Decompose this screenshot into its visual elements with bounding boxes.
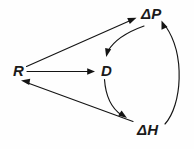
edge-r-to-d <box>27 68 95 74</box>
edge-r-to-delta-p <box>27 18 137 67</box>
arrowhead-r-to-d <box>87 68 95 74</box>
edge-delta-p-to-d <box>105 26 144 57</box>
edge-delta-h-to-r-line <box>27 83 134 122</box>
edge-delta-h-to-delta-p-line <box>165 26 179 124</box>
edge-delta-h-to-delta-p <box>162 21 180 125</box>
node-label-delta-h: ΔH <box>137 122 158 137</box>
edge-r-to-delta-p-line <box>27 20 132 67</box>
edge-delta-p-to-d-line <box>108 26 144 51</box>
edge-d-to-delta-h-line <box>105 80 122 116</box>
node-label-r: R <box>13 63 24 78</box>
node-label-d: D <box>101 63 112 78</box>
path-diagram: R D ΔP ΔH <box>0 0 194 149</box>
edge-delta-h-to-r <box>21 79 133 122</box>
arrowhead-delta-p-to-d <box>105 48 111 57</box>
diagram-canvas <box>0 0 194 149</box>
arrowhead-r-to-delta-p <box>127 18 136 24</box>
arrowhead-delta-h-to-r <box>21 79 30 85</box>
node-label-delta-p: ΔP <box>141 6 161 21</box>
